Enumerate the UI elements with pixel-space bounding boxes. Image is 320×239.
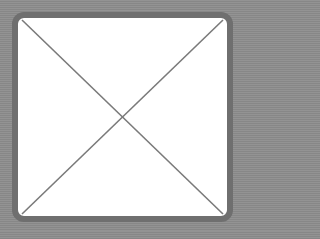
cross-icon	[18, 18, 227, 216]
image-placeholder-frame	[12, 12, 233, 222]
